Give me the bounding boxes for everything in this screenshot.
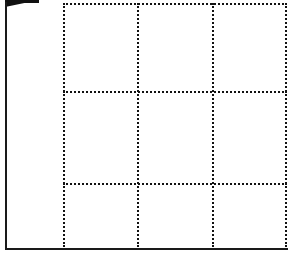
grid-cell (65, 185, 137, 247)
diagram-canvas (0, 0, 290, 253)
grid-cell (139, 185, 212, 247)
bottom-border-line (5, 248, 288, 250)
grid-cell (139, 93, 212, 183)
grid-cell (65, 93, 137, 183)
grid-cell (214, 185, 285, 247)
grid-line-right (285, 3, 287, 247)
grid-cell (139, 5, 212, 91)
grid-cell (214, 5, 285, 91)
grid-cell (214, 93, 285, 183)
grid-cell (65, 5, 137, 91)
left-border-line (5, 2, 7, 250)
top-left-wedge-taper (5, 0, 39, 7)
